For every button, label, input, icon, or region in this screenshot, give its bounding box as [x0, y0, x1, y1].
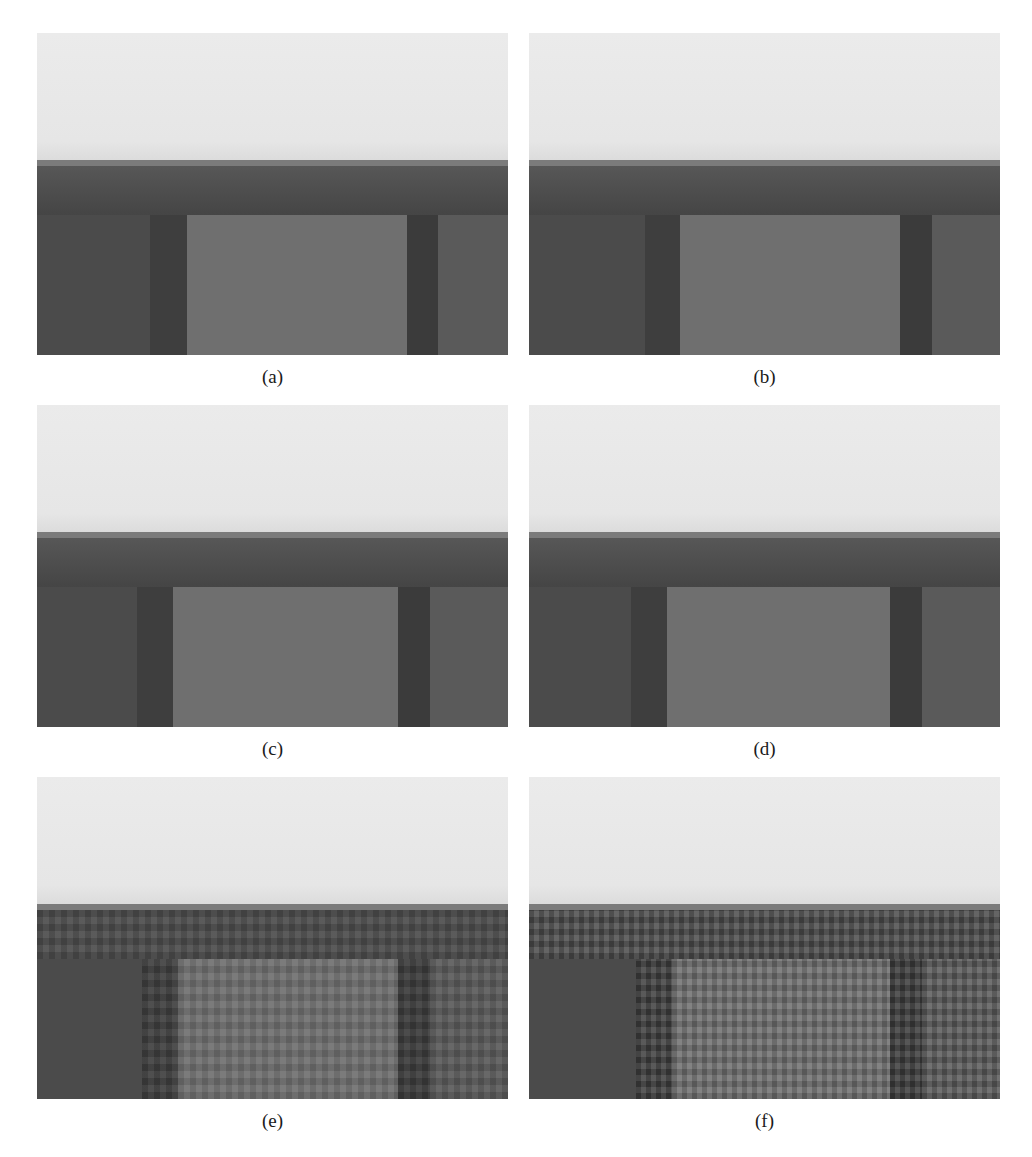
cropped-text-line [0, 0, 1032, 6]
shadow-strip [631, 587, 667, 727]
shadow-strip [150, 215, 187, 355]
image-panel-c [37, 405, 508, 727]
panel-caption-d: (d) [529, 738, 1000, 760]
dark-column [398, 587, 430, 727]
sky-region [37, 405, 508, 532]
image-panel-f [529, 777, 1000, 1099]
right-region [438, 215, 508, 355]
panel-caption-b: (b) [529, 366, 1000, 388]
image-panel-d [529, 405, 1000, 727]
right-region [430, 587, 508, 727]
inner-square [173, 587, 398, 727]
dark-band [529, 910, 1000, 959]
dark-column [900, 215, 932, 355]
right-region [922, 959, 1000, 1099]
dark-band [37, 910, 508, 959]
dark-column [890, 587, 922, 727]
right-region [922, 587, 1000, 727]
inner-square [187, 215, 407, 355]
image-panel-e [37, 777, 508, 1099]
right-region [932, 215, 1000, 355]
panel-caption-f: (f) [529, 1110, 1000, 1132]
dark-column [890, 959, 922, 1099]
inner-square [680, 215, 900, 355]
panel-caption-e: (e) [37, 1110, 508, 1132]
dark-band [529, 538, 1000, 587]
sky-region [529, 777, 1000, 904]
shadow-strip [142, 959, 178, 1099]
panel-caption-c: (c) [37, 738, 508, 760]
sky-region [37, 777, 508, 904]
dark-band [37, 538, 508, 587]
inner-square [672, 959, 890, 1099]
inner-square [667, 587, 890, 727]
dark-band [37, 166, 508, 215]
shadow-strip [137, 587, 173, 727]
inner-square [178, 959, 398, 1099]
sky-region [529, 405, 1000, 532]
sky-region [37, 33, 508, 160]
image-panel-a [37, 33, 508, 355]
image-panel-b [529, 33, 1000, 355]
dark-column [398, 959, 430, 1099]
dark-band [529, 166, 1000, 215]
sky-region [529, 33, 1000, 160]
shadow-strip [636, 959, 672, 1099]
panel-caption-a: (a) [37, 366, 508, 388]
dark-column [407, 215, 438, 355]
shadow-strip [645, 215, 680, 355]
right-region [430, 959, 508, 1099]
